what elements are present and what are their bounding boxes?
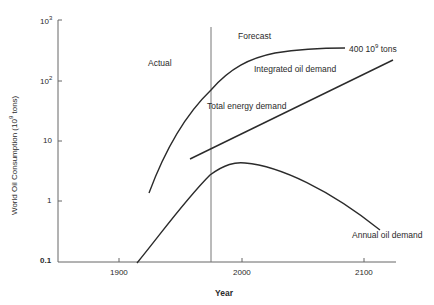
end-value-annotation: 400 109 tons [349, 43, 397, 54]
y-tick-10: 10 [43, 136, 52, 145]
x-tick-1900: 1900 [110, 268, 128, 277]
x-tick-2100: 2100 [355, 268, 373, 277]
y-tick-100: 102 [40, 75, 52, 86]
forecast-label: Forecast [238, 31, 271, 41]
y-axis-label: World Oil Consumption (109 tons) [8, 96, 19, 215]
integrated-oil-label: Integrated oil demand [254, 64, 336, 74]
y-tick-1000: 103 [40, 15, 52, 26]
annual-oil-label: Annual oil demand [352, 230, 422, 240]
actual-label: Actual [148, 58, 172, 68]
y-tick-0.1: 0.1 [40, 256, 51, 265]
y-tick-1: 1 [47, 196, 51, 205]
x-tick-2000: 2000 [233, 268, 251, 277]
total-energy-label: Total energy demand [207, 101, 286, 111]
x-axis-label: Year [215, 288, 233, 298]
annual-oil-curve [137, 163, 380, 263]
